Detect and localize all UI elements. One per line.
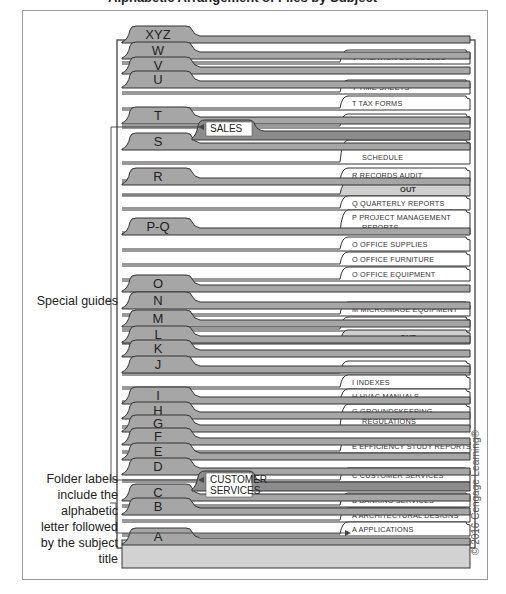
guide-label: F xyxy=(154,429,162,444)
guide-label: D xyxy=(153,459,162,474)
folder-label: O OFFICE FURNITURE xyxy=(352,255,434,264)
guide-label: M xyxy=(153,311,164,326)
folder-label-line2: SCHEDULE xyxy=(362,153,403,162)
guide-label: T xyxy=(154,108,162,123)
out-label: OUT xyxy=(400,185,416,194)
guide-label: O xyxy=(153,276,163,291)
folder-label: O OFFICE SUPPLIES xyxy=(352,240,428,249)
special-guide-label: CUSTOMER xyxy=(210,474,267,485)
guide-label: A xyxy=(154,529,163,544)
folder-label: A APPLICATIONS xyxy=(352,525,413,534)
copyright-notice: © 2016 Cengage Learning® xyxy=(470,430,481,555)
guide-label: I xyxy=(156,388,160,403)
guide-label: B xyxy=(154,499,163,514)
folder-label: T TAX FORMS xyxy=(352,99,402,108)
primary-guide: XYZ xyxy=(122,26,470,43)
special-guide-label: SALES xyxy=(210,123,243,134)
special-guides-callout: Special guides xyxy=(34,293,118,309)
guide-label: S xyxy=(154,134,163,149)
guide-label: R xyxy=(153,169,162,184)
folder-label: O OFFICE EQUIPMENT xyxy=(352,270,436,279)
folder-label: I INDEXES xyxy=(352,378,390,387)
guide-label: XYZ xyxy=(145,27,170,42)
guide-label: P-Q xyxy=(146,219,169,234)
guide-label: U xyxy=(153,72,162,87)
guide-label: W xyxy=(152,43,165,58)
guide-label: E xyxy=(154,444,163,459)
special-guide-label-line2: SERVICES xyxy=(210,485,261,496)
folder-label: Q QUARTERLY REPORTS xyxy=(352,199,444,208)
folder-label: P PROJECT MANAGEMENT xyxy=(352,213,451,222)
guide-label: K xyxy=(154,341,163,356)
folder-labels-callout: Folder labels include the alphabetic let… xyxy=(36,471,118,567)
guide-label: J xyxy=(155,357,162,372)
guide-label: N xyxy=(153,293,162,308)
